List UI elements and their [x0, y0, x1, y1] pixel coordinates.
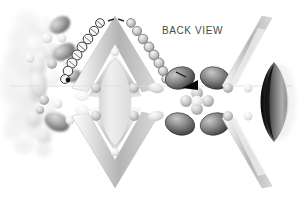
- illustration-canvas: BACK VIEW: [0, 0, 299, 203]
- back-view-illustration: [0, 0, 299, 203]
- back-view-label: BACK VIEW: [162, 25, 223, 36]
- right-lens-shadow: [264, 64, 296, 140]
- left-chain-end-dot: [66, 78, 71, 83]
